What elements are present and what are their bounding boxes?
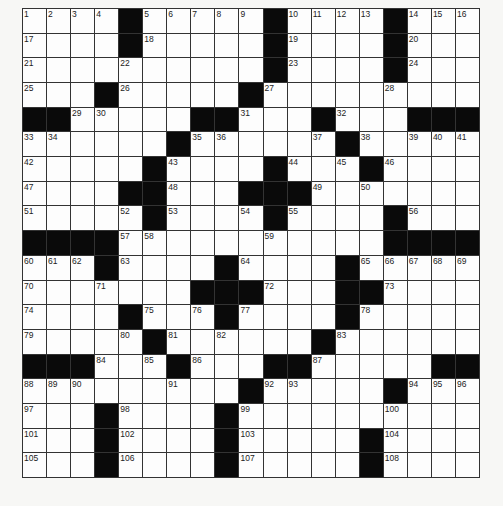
grid-cell[interactable]: 64 (239, 256, 262, 280)
grid-cell[interactable] (432, 429, 455, 453)
grid-cell[interactable] (119, 281, 142, 305)
grid-cell[interactable] (215, 182, 238, 206)
grid-cell[interactable]: 22 (119, 58, 142, 82)
grid-cell[interactable]: 12 (336, 9, 359, 33)
grid-cell[interactable] (288, 281, 311, 305)
grid-cell[interactable]: 99 (239, 404, 262, 428)
grid-cell[interactable] (264, 256, 287, 280)
grid-cell[interactable] (47, 330, 70, 354)
grid-cell[interactable] (47, 429, 70, 453)
grid-cell[interactable] (239, 157, 262, 181)
grid-cell[interactable]: 71 (95, 281, 118, 305)
grid-cell[interactable] (47, 83, 70, 107)
grid-cell[interactable] (384, 108, 407, 132)
grid-cell[interactable]: 97 (23, 404, 46, 428)
grid-cell[interactable]: 33 (23, 132, 46, 156)
grid-cell[interactable] (432, 305, 455, 329)
grid-cell[interactable] (312, 58, 335, 82)
grid-cell[interactable] (312, 83, 335, 107)
grid-cell[interactable] (95, 330, 118, 354)
grid-cell[interactable] (432, 281, 455, 305)
grid-cell[interactable] (95, 206, 118, 230)
grid-cell[interactable] (264, 404, 287, 428)
grid-cell[interactable] (71, 132, 94, 156)
grid-cell[interactable] (312, 404, 335, 428)
grid-cell[interactable] (336, 379, 359, 403)
grid-cell[interactable]: 19 (288, 34, 311, 58)
grid-cell[interactable] (312, 231, 335, 255)
grid-cell[interactable] (336, 453, 359, 477)
grid-cell[interactable] (47, 157, 70, 181)
grid-cell[interactable] (288, 83, 311, 107)
grid-cell[interactable] (47, 58, 70, 82)
grid-cell[interactable]: 89 (47, 379, 70, 403)
grid-cell[interactable]: 60 (23, 256, 46, 280)
grid-cell[interactable] (384, 305, 407, 329)
grid-cell[interactable]: 5 (143, 9, 166, 33)
grid-cell[interactable] (95, 379, 118, 403)
grid-cell[interactable] (336, 231, 359, 255)
grid-cell[interactable] (408, 157, 431, 181)
grid-cell[interactable] (336, 83, 359, 107)
grid-cell[interactable] (264, 305, 287, 329)
grid-cell[interactable] (143, 132, 166, 156)
grid-cell[interactable] (167, 231, 190, 255)
grid-cell[interactable]: 46 (384, 157, 407, 181)
grid-cell[interactable] (47, 404, 70, 428)
grid-cell[interactable]: 93 (288, 379, 311, 403)
grid-cell[interactable]: 38 (360, 132, 383, 156)
grid-cell[interactable]: 44 (288, 157, 311, 181)
grid-cell[interactable]: 104 (384, 429, 407, 453)
grid-cell[interactable] (432, 404, 455, 428)
grid-cell[interactable]: 74 (23, 305, 46, 329)
grid-cell[interactable] (336, 206, 359, 230)
grid-cell[interactable] (288, 404, 311, 428)
grid-cell[interactable] (191, 429, 214, 453)
grid-cell[interactable] (312, 157, 335, 181)
grid-cell[interactable] (336, 58, 359, 82)
grid-cell[interactable] (264, 132, 287, 156)
grid-cell[interactable]: 7 (191, 9, 214, 33)
grid-cell[interactable] (71, 206, 94, 230)
grid-cell[interactable]: 66 (384, 256, 407, 280)
grid-cell[interactable]: 23 (288, 58, 311, 82)
grid-cell[interactable] (408, 281, 431, 305)
grid-cell[interactable]: 62 (71, 256, 94, 280)
grid-cell[interactable] (215, 157, 238, 181)
grid-cell[interactable] (143, 379, 166, 403)
grid-cell[interactable]: 70 (23, 281, 46, 305)
grid-cell[interactable] (360, 330, 383, 354)
grid-cell[interactable]: 102 (119, 429, 142, 453)
grid-cell[interactable]: 106 (119, 453, 142, 477)
grid-cell[interactable] (71, 305, 94, 329)
grid-cell[interactable]: 28 (384, 83, 407, 107)
grid-cell[interactable]: 26 (119, 83, 142, 107)
grid-cell[interactable]: 47 (23, 182, 46, 206)
grid-cell[interactable] (384, 132, 407, 156)
grid-cell[interactable] (239, 231, 262, 255)
grid-cell[interactable] (143, 404, 166, 428)
grid-cell[interactable] (239, 355, 262, 379)
grid-cell[interactable] (167, 83, 190, 107)
grid-cell[interactable] (71, 83, 94, 107)
grid-cell[interactable] (215, 83, 238, 107)
grid-cell[interactable]: 95 (432, 379, 455, 403)
grid-cell[interactable] (191, 231, 214, 255)
grid-cell[interactable]: 90 (71, 379, 94, 403)
grid-cell[interactable] (191, 206, 214, 230)
grid-cell[interactable] (167, 58, 190, 82)
grid-cell[interactable]: 78 (360, 305, 383, 329)
grid-cell[interactable]: 49 (312, 182, 335, 206)
grid-cell[interactable]: 36 (215, 132, 238, 156)
grid-cell[interactable] (336, 182, 359, 206)
grid-cell[interactable] (264, 108, 287, 132)
grid-cell[interactable] (191, 58, 214, 82)
grid-cell[interactable] (336, 429, 359, 453)
grid-cell[interactable] (239, 58, 262, 82)
grid-cell[interactable]: 82 (215, 330, 238, 354)
grid-cell[interactable]: 20 (408, 34, 431, 58)
grid-cell[interactable]: 34 (47, 132, 70, 156)
grid-cell[interactable] (167, 281, 190, 305)
grid-cell[interactable]: 103 (239, 429, 262, 453)
grid-cell[interactable] (360, 83, 383, 107)
